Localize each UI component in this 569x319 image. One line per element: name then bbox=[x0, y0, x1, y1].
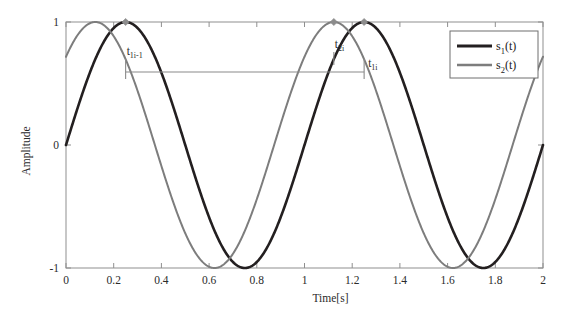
x-tick-label: 0.8 bbox=[250, 274, 265, 286]
x-tick-label: 0.2 bbox=[107, 274, 122, 286]
x-tick-label: 1.6 bbox=[440, 274, 455, 286]
x-tick-label: 1.4 bbox=[393, 274, 408, 286]
sine-waves-chart: 00.20.40.60.811.21.41.61.82 10-1 t1i-1t2… bbox=[0, 0, 569, 319]
x-tick-label: 1.8 bbox=[488, 274, 503, 286]
x-axis-title: Time[s] bbox=[313, 292, 349, 304]
y-axis-title: Amplitude bbox=[20, 126, 33, 175]
x-tick-label: 0 bbox=[63, 274, 69, 286]
y-tick-label: 0 bbox=[53, 139, 59, 151]
x-tick-label: 0.4 bbox=[154, 274, 169, 286]
y-tick-label: 1 bbox=[53, 16, 59, 28]
x-tick-label: 1 bbox=[302, 274, 308, 286]
x-tick-label: 0.6 bbox=[202, 274, 217, 286]
y-tick-label: -1 bbox=[49, 262, 59, 274]
x-tick-label: 1.2 bbox=[345, 274, 360, 286]
legend-box: s1(t)s2(t) bbox=[450, 31, 538, 78]
legend-frame bbox=[450, 31, 538, 78]
x-tick-label: 2 bbox=[540, 274, 546, 286]
figure-container: 00.20.40.60.811.21.41.61.82 10-1 t1i-1t2… bbox=[0, 0, 569, 319]
